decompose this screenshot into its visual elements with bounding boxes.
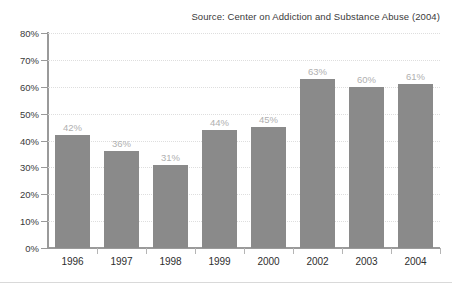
bar[interactable] <box>153 165 188 248</box>
bar-group[interactable]: 45% <box>251 33 286 248</box>
x-axis-tick <box>342 248 343 254</box>
x-axis-category-label: 2002 <box>293 256 342 267</box>
bar-value-label: 61% <box>398 71 433 82</box>
y-axis-tick <box>41 33 47 34</box>
y-axis-tick-label: 40% <box>1 135 39 146</box>
y-axis-tick <box>41 248 47 249</box>
y-axis-tick <box>41 167 47 168</box>
y-axis-label-group: 0%10%20%30%40%50%60%70%80% <box>0 0 39 283</box>
bar-value-label: 45% <box>251 114 286 125</box>
bar[interactable] <box>349 87 384 248</box>
bar-group[interactable]: 42% <box>55 33 90 248</box>
y-axis-tick <box>41 221 47 222</box>
x-axis-category-label: 2000 <box>244 256 293 267</box>
y-axis-tick <box>41 141 47 142</box>
plot-area: 42%36%31%44%45%63%60%61% <box>48 33 440 248</box>
y-axis-tick <box>41 114 47 115</box>
source-note: Source: Center on Addiction and Substanc… <box>191 11 440 22</box>
bar[interactable] <box>398 84 433 248</box>
x-axis-tick <box>146 248 147 254</box>
y-axis-tick-label: 20% <box>1 189 39 200</box>
x-axis-category-label: 1998 <box>146 256 195 267</box>
bar[interactable] <box>251 127 286 248</box>
x-axis-category-label: 1999 <box>195 256 244 267</box>
bar-value-label: 42% <box>55 122 90 133</box>
x-axis-category-label: 2003 <box>342 256 391 267</box>
y-axis-tick <box>41 194 47 195</box>
y-axis-tick-label: 0% <box>1 243 39 254</box>
x-axis-tick <box>97 248 98 254</box>
bar-chart: Source: Center on Addiction and Substanc… <box>0 0 452 283</box>
x-axis-tick <box>244 248 245 254</box>
y-axis-tick <box>41 87 47 88</box>
bar-value-label: 60% <box>349 74 384 85</box>
bar-group[interactable]: 44% <box>202 33 237 248</box>
y-axis-tick-label: 80% <box>1 28 39 39</box>
bar[interactable] <box>55 135 90 248</box>
x-axis-tick <box>293 248 294 254</box>
y-axis-tick-label: 10% <box>1 216 39 227</box>
bar-value-label: 44% <box>202 117 237 128</box>
bar-group[interactable]: 36% <box>104 33 139 248</box>
bar[interactable] <box>300 79 335 248</box>
y-axis-tick-label: 50% <box>1 108 39 119</box>
x-axis-tick <box>440 248 441 254</box>
bar-value-label: 36% <box>104 138 139 149</box>
y-axis-tick-label: 70% <box>1 54 39 65</box>
bar-group[interactable]: 31% <box>153 33 188 248</box>
y-axis-tick-label: 60% <box>1 81 39 92</box>
bar[interactable] <box>202 130 237 248</box>
bar-value-label: 63% <box>300 66 335 77</box>
x-axis-tick <box>391 248 392 254</box>
bar-value-label: 31% <box>153 152 188 163</box>
bar-group[interactable]: 60% <box>349 33 384 248</box>
x-axis-category-label: 2004 <box>391 256 440 267</box>
bar-group[interactable]: 61% <box>398 33 433 248</box>
x-axis-category-label: 1996 <box>48 256 97 267</box>
x-axis-tick <box>195 248 196 254</box>
x-axis-category-label: 1997 <box>97 256 146 267</box>
bar[interactable] <box>104 151 139 248</box>
y-axis-tick-label: 30% <box>1 162 39 173</box>
bar-group[interactable]: 63% <box>300 33 335 248</box>
y-axis-tick <box>41 60 47 61</box>
